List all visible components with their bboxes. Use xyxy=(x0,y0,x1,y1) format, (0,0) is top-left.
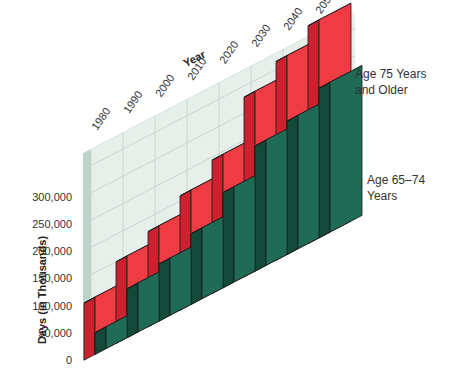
x-tick-label: 2000 xyxy=(153,72,177,99)
y-axis-label: Days (in Thousands) xyxy=(36,236,48,345)
y-tick-label: 0 xyxy=(66,354,72,366)
x-tick-label: 2040 xyxy=(281,5,305,32)
legend-75-line2: and Older xyxy=(355,82,426,98)
x-tick-label: 2030 xyxy=(249,22,273,49)
x-tick-label: 1980 xyxy=(89,105,113,132)
y-tick-label: 300,000 xyxy=(32,191,72,203)
x-tick-label: 2020 xyxy=(217,39,241,66)
legend-75-line1: Age 75 Years xyxy=(355,66,426,82)
x-tick-label: 1990 xyxy=(121,89,145,116)
legend-age-75-plus: Age 75 Years and Older xyxy=(355,66,426,98)
legend-age-65-74: Age 65–74 Years xyxy=(367,172,453,204)
y-tick-label: 250,000 xyxy=(32,218,72,230)
